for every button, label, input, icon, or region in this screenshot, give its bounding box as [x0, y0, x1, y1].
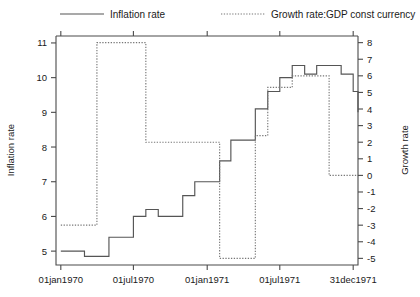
series-line-growth: [61, 43, 358, 259]
y-right-tick-label-12: 7: [367, 54, 372, 65]
series-layer: [61, 43, 358, 259]
x-tick-label-2: 01jan1971: [185, 274, 229, 285]
y-right-tick-label-3: -2: [367, 203, 375, 214]
dual-axis-step-chart: Inflation rate Growth rate:GDP const cur…: [0, 0, 420, 297]
y-axis-right-title: Growth rate: [399, 125, 410, 175]
y-left-tick-label-0: 5: [42, 246, 47, 257]
x-axis-tick-labels: 01jan197001jul197001jan197101jul197131de…: [39, 274, 377, 285]
y-right-tick-label-5: 0: [367, 170, 372, 181]
y-axis-left-title: Inflation rate: [5, 124, 16, 176]
y-right-tick-label-1: -4: [367, 236, 375, 247]
plot-border: [56, 36, 358, 265]
y-left-tick-label-4: 9: [42, 107, 47, 118]
y-right-tick-label-11: 6: [367, 70, 372, 81]
legend-label-growth: Growth rate:GDP const currency: [271, 9, 415, 20]
y-right-tick-label-13: 8: [367, 37, 372, 48]
legend-label-inflation: Inflation rate: [110, 9, 165, 20]
y-left-tick-label-1: 6: [42, 211, 47, 222]
chart-container: Inflation rate Growth rate:GDP const cur…: [0, 0, 420, 297]
y-right-tick-label-10: 5: [367, 87, 372, 98]
y-axis-right-ticks: [358, 43, 363, 259]
legend: Inflation rate Growth rate:GDP const cur…: [60, 9, 415, 20]
y-axis-left-tick-labels: 567891011: [36, 37, 47, 256]
y-right-tick-label-4: -1: [367, 186, 375, 197]
x-tick-label-3: 01jul1971: [259, 274, 300, 285]
y-right-tick-label-0: -5: [367, 253, 375, 264]
y-right-tick-label-8: 3: [367, 120, 372, 131]
x-tick-label-0: 01jan1970: [39, 274, 83, 285]
y-left-tick-label-3: 8: [42, 142, 47, 153]
y-axis-right-tick-labels: -5-4-3-2-1012345678: [367, 37, 375, 264]
y-right-tick-label-6: 1: [367, 153, 372, 164]
x-tick-label-4: 31dec1971: [330, 274, 377, 285]
plot-frame: [56, 36, 358, 265]
x-axis-ticks: [61, 265, 353, 270]
y-left-tick-label-6: 11: [37, 37, 47, 48]
top-axis-ticks: [61, 31, 353, 36]
y-left-tick-label-5: 10: [36, 72, 47, 83]
y-right-tick-label-2: -3: [367, 220, 375, 231]
y-right-tick-label-7: 2: [367, 137, 372, 148]
y-right-tick-label-9: 4: [367, 104, 372, 115]
series-line-inflation: [61, 65, 358, 256]
y-left-tick-label-2: 7: [42, 176, 47, 187]
y-axis-left-ticks: [51, 43, 56, 251]
x-tick-label-1: 01jul1970: [113, 274, 154, 285]
